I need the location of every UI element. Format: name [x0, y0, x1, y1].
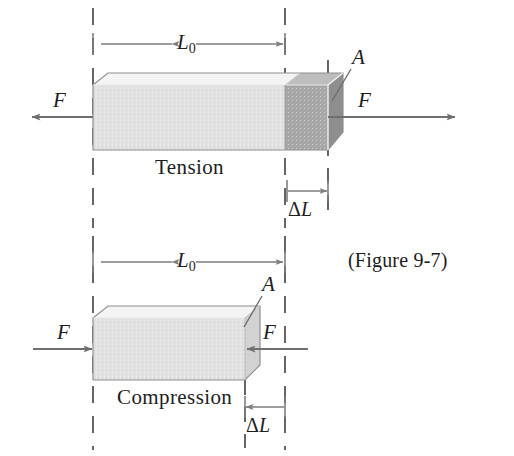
bar-front-texture-tension [93, 85, 285, 150]
delta-length-symbol-tension: L [301, 198, 312, 220]
mode-label-compression: Compression [117, 387, 232, 408]
compression-bar [93, 306, 260, 380]
length-label-subscript-compression: 0 [189, 259, 196, 274]
tension-bar [93, 73, 343, 150]
length-label-subscript-tension: 0 [189, 41, 196, 56]
force-label-left-compression: F [57, 322, 70, 343]
bar-front-texture-compression [93, 318, 245, 380]
mode-label-tension: Tension [155, 157, 224, 178]
length-label-tension: L0 [177, 32, 196, 56]
delta-symbol-tension: Δ [288, 198, 301, 220]
force-label-right-compression: F [263, 322, 276, 343]
delta-length-symbol-compression: L [259, 414, 270, 436]
stress-strain-figure: F F A L0 Tension ΔL F F A L0 Compression… [0, 0, 514, 456]
bar-top-face-tension [93, 73, 300, 85]
length-label-symbol-tension: L [177, 30, 189, 54]
area-label-tension: A [352, 47, 365, 68]
bar-top-face-compression [93, 306, 260, 318]
figure-canvas [0, 0, 514, 456]
area-label-compression: A [262, 274, 275, 295]
delta-symbol-compression: Δ [246, 414, 259, 436]
delta-length-label-tension: ΔL [288, 199, 312, 219]
force-label-right-tension: F [358, 90, 371, 111]
length-label-compression: L0 [177, 250, 196, 274]
bar-side-face-compression [245, 306, 260, 380]
bar-stretch-front-texture-tension [285, 85, 328, 150]
delta-length-label-compression: ΔL [246, 415, 270, 435]
bar-stretch-side-face-tension [328, 73, 343, 150]
length-label-symbol-compression: L [177, 248, 189, 272]
force-label-left-tension: F [53, 90, 66, 111]
figure-caption: (Figure 9-7) [348, 250, 448, 270]
